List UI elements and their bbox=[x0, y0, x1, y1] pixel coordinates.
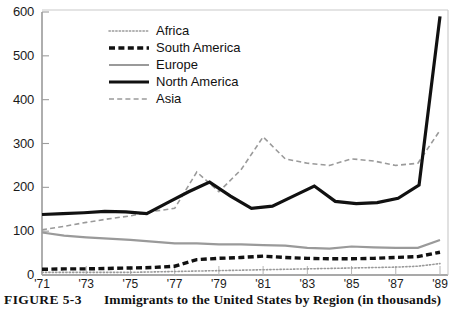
legend-swatch-icon bbox=[108, 25, 150, 37]
x-tick-label: '75 bbox=[123, 277, 139, 291]
figure-root: 6005004003002001000 '71'73'75'77'79'81'8… bbox=[0, 0, 454, 315]
series-line-asia bbox=[42, 130, 440, 230]
y-tick-label: 200 bbox=[4, 180, 34, 193]
chart-legend: AfricaSouth AmericaEuropeNorth AmericaAs… bbox=[108, 22, 288, 107]
legend-item-africa: Africa bbox=[108, 22, 288, 39]
bottom-clip bbox=[0, 308, 454, 315]
legend-item-europe: Europe bbox=[108, 56, 288, 73]
legend-label: South America bbox=[156, 41, 241, 54]
y-tick-label: 400 bbox=[4, 93, 34, 106]
legend-label: Africa bbox=[156, 24, 189, 37]
y-axis-ticks bbox=[42, 12, 49, 231]
y-tick-label: 500 bbox=[4, 49, 34, 62]
x-tick-label: '85 bbox=[344, 277, 360, 291]
legend-swatch-icon bbox=[108, 42, 150, 54]
caption-figure-number: FIGURE 5-3 bbox=[4, 292, 104, 308]
caption-title: Immigrants to the United States by Regio… bbox=[104, 292, 441, 308]
y-tick-label: 300 bbox=[4, 137, 34, 150]
x-tick-label: '77 bbox=[167, 277, 183, 291]
x-tick-label: '83 bbox=[300, 277, 316, 291]
x-tick-label: '71 bbox=[34, 277, 50, 291]
legend-item-south-america: South America bbox=[108, 39, 288, 56]
legend-label: Europe bbox=[156, 58, 198, 71]
legend-label: Asia bbox=[156, 92, 181, 105]
legend-label: North America bbox=[156, 75, 238, 88]
legend-swatch-icon bbox=[108, 76, 150, 88]
x-tick-label: '73 bbox=[78, 277, 94, 291]
series-line-south-america bbox=[42, 252, 440, 269]
series-line-europe bbox=[42, 232, 440, 248]
y-tick-label: 100 bbox=[4, 224, 34, 237]
legend-swatch-icon bbox=[108, 59, 150, 71]
x-tick-label: '89 bbox=[432, 277, 448, 291]
y-tick-label: 600 bbox=[4, 5, 34, 18]
x-axis-tick-labels: '71'73'75'77'79'81'83'85'87'89 bbox=[0, 277, 454, 293]
legend-swatch-icon bbox=[108, 93, 150, 105]
x-tick-label: '87 bbox=[388, 277, 404, 291]
x-tick-label: '81 bbox=[255, 277, 271, 291]
legend-item-north-america: North America bbox=[108, 73, 288, 90]
y-axis-tick-labels: 6005004003002001000 bbox=[0, 0, 34, 290]
x-tick-label: '79 bbox=[211, 277, 227, 291]
legend-item-asia: Asia bbox=[108, 90, 288, 107]
